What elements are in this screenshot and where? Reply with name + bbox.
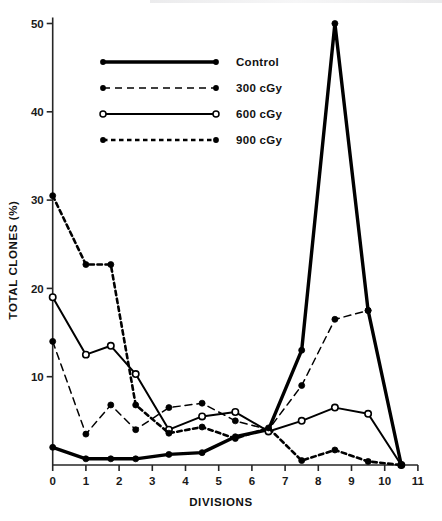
chart-figure: 1020304050 01234567891011 DIVISIONS TOTA… bbox=[0, 0, 442, 521]
series-300-cgy bbox=[50, 307, 405, 468]
legend-label: Control bbox=[236, 56, 279, 68]
x-tick-label-1: 1 bbox=[83, 475, 90, 487]
data-point bbox=[398, 462, 404, 468]
data-point bbox=[108, 456, 114, 462]
data-point bbox=[199, 424, 205, 430]
data-point bbox=[232, 409, 238, 415]
y-tick-label-30: 30 bbox=[31, 194, 44, 206]
data-point bbox=[365, 411, 371, 417]
legend-swatch-marker bbox=[213, 111, 219, 117]
legend: Control300 cGy600 cGy900 cGy bbox=[100, 56, 283, 146]
data-point bbox=[133, 427, 139, 433]
data-point bbox=[83, 351, 89, 357]
y-tick-label-20: 20 bbox=[31, 283, 44, 295]
legend-item-control: Control bbox=[100, 56, 279, 68]
x-tick-label-9: 9 bbox=[348, 475, 354, 487]
data-point bbox=[166, 430, 172, 436]
data-point bbox=[133, 456, 139, 462]
data-point bbox=[232, 418, 238, 424]
data-point bbox=[83, 262, 89, 268]
x-tick-label-3: 3 bbox=[149, 475, 155, 487]
x-tick-label-7: 7 bbox=[282, 475, 288, 487]
data-point bbox=[108, 262, 114, 268]
data-point bbox=[199, 413, 205, 419]
scan-artifact-strip bbox=[150, 0, 442, 3]
data-point bbox=[133, 371, 139, 377]
data-point bbox=[299, 347, 305, 353]
x-tick-label-6: 6 bbox=[249, 475, 255, 487]
y-axis-title: TOTAL CLONES (%) bbox=[7, 201, 19, 320]
y-tick-label-50: 50 bbox=[31, 18, 44, 30]
x-tick-label-0: 0 bbox=[49, 475, 55, 487]
x-tick-label-10: 10 bbox=[378, 475, 391, 487]
data-point bbox=[50, 444, 56, 450]
data-point bbox=[50, 294, 56, 300]
x-axis-title: DIVISIONS bbox=[189, 496, 253, 508]
x-tick-label-11: 11 bbox=[412, 475, 425, 487]
y-tick-label-10: 10 bbox=[31, 371, 44, 383]
y-tick-label-40: 40 bbox=[31, 106, 44, 118]
data-point bbox=[166, 451, 172, 457]
data-point bbox=[133, 402, 139, 408]
data-point bbox=[332, 21, 338, 27]
data-point bbox=[50, 338, 56, 344]
legend-swatch-marker bbox=[100, 137, 106, 143]
x-tick-label-2: 2 bbox=[116, 475, 122, 487]
legend-swatch-marker bbox=[100, 59, 106, 65]
x-axis-ticks: 01234567891011 bbox=[49, 465, 424, 487]
x-tick-label-5: 5 bbox=[215, 475, 222, 487]
line-chart-svg: 1020304050 01234567891011 DIVISIONS TOTA… bbox=[0, 0, 442, 521]
data-point bbox=[108, 402, 114, 408]
legend-swatch-marker bbox=[100, 111, 106, 117]
data-point bbox=[299, 418, 305, 424]
legend-swatch-marker bbox=[213, 137, 219, 143]
data-point bbox=[299, 458, 305, 464]
data-point bbox=[199, 450, 205, 456]
data-point bbox=[50, 193, 56, 199]
data-point bbox=[83, 456, 89, 462]
data-point bbox=[266, 425, 272, 431]
x-tick-label-8: 8 bbox=[315, 475, 322, 487]
data-point bbox=[108, 343, 114, 349]
data-point bbox=[232, 436, 238, 442]
legend-item-300-cgy: 300 cGy bbox=[100, 82, 282, 94]
legend-item-600-cgy: 600 cGy bbox=[100, 108, 283, 120]
series-900-cgy bbox=[50, 193, 405, 468]
legend-swatch-marker bbox=[213, 59, 219, 65]
legend-label: 600 cGy bbox=[236, 108, 283, 120]
legend-swatch-marker bbox=[100, 85, 106, 91]
legend-swatch-marker bbox=[213, 85, 219, 91]
data-point bbox=[365, 458, 371, 464]
legend-label: 900 cGy bbox=[236, 134, 283, 146]
legend-item-900-cgy: 900 cGy bbox=[100, 134, 282, 146]
data-point bbox=[299, 383, 305, 389]
data-point bbox=[332, 447, 338, 453]
series-line bbox=[53, 196, 402, 465]
x-tick-label-4: 4 bbox=[182, 475, 189, 487]
legend-label: 300 cGy bbox=[236, 82, 283, 94]
y-axis-ticks: 1020304050 bbox=[31, 18, 53, 383]
data-point bbox=[83, 431, 89, 437]
data-point bbox=[365, 307, 371, 313]
data-point bbox=[166, 405, 172, 411]
data-point bbox=[332, 404, 338, 410]
data-point bbox=[332, 316, 338, 322]
data-point bbox=[199, 400, 205, 406]
